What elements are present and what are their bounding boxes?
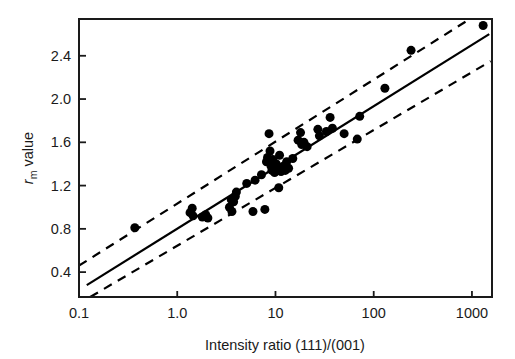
data-point — [257, 170, 266, 179]
x-axis-label: Intensity ratio (111)/(001) — [205, 337, 365, 353]
x-tick-label: 0.1 — [69, 305, 89, 321]
scatter-plot-figure: 0.11.0101001000 0.40.81.21.62.02.4 Inten… — [0, 0, 515, 359]
data-point — [130, 223, 139, 232]
data-point — [227, 207, 236, 216]
data-point — [188, 204, 197, 213]
y-tick-label: 1.2 — [51, 178, 71, 194]
y-axis-ticks — [79, 56, 86, 272]
data-point — [242, 179, 251, 188]
data-point — [380, 84, 389, 93]
data-point — [288, 154, 297, 163]
data-point — [303, 142, 312, 151]
data-point — [340, 129, 349, 138]
data-point — [232, 188, 241, 197]
y-tick-label: 2.4 — [51, 48, 71, 64]
chart-canvas: 0.11.0101001000 0.40.81.21.62.02.4 Inten… — [0, 0, 515, 359]
y-tick-label: 1.6 — [51, 134, 71, 150]
data-point — [353, 135, 362, 144]
data-point — [248, 207, 257, 216]
data-point — [203, 214, 212, 223]
lower-confidence-band — [90, 61, 490, 297]
data-point — [479, 21, 488, 30]
data-point — [260, 205, 269, 214]
y-axis-tick-labels: 0.40.81.21.62.02.4 — [51, 48, 71, 280]
data-point — [296, 128, 305, 137]
x-tick-label: 100 — [362, 305, 386, 321]
data-point — [189, 211, 198, 220]
data-point — [266, 146, 275, 155]
y-tick-label: 0.8 — [51, 221, 71, 237]
data-point — [265, 129, 274, 138]
y-tick-label: 2.0 — [51, 91, 71, 107]
x-tick-label: 1.0 — [167, 305, 187, 321]
data-point — [284, 164, 293, 173]
y-axis-label: rm value — [20, 132, 39, 184]
data-points — [130, 21, 487, 232]
data-point — [326, 113, 335, 122]
data-point — [355, 112, 364, 121]
x-tick-label: 1000 — [456, 305, 488, 321]
data-point — [328, 124, 337, 133]
x-tick-label: 10 — [267, 305, 283, 321]
y-tick-label: 0.4 — [51, 264, 71, 280]
data-point — [274, 183, 283, 192]
data-point — [407, 46, 416, 55]
data-point — [275, 151, 284, 160]
y-axis-label-text: rm value — [20, 132, 39, 184]
x-axis-tick-labels: 0.11.0101001000 — [69, 305, 488, 321]
